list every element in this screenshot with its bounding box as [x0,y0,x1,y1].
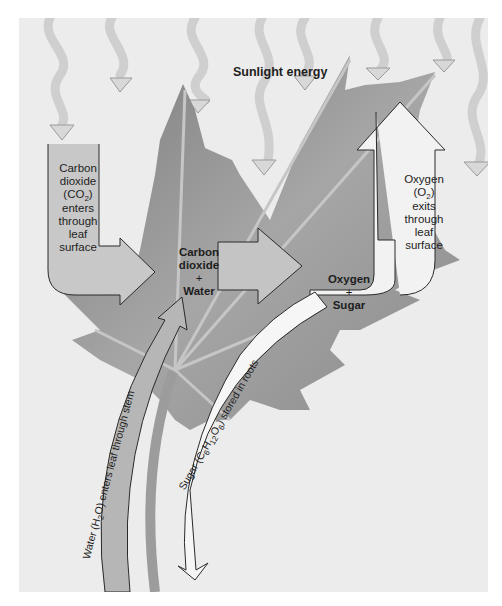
co2-line: enters [51,202,105,215]
co2-line: dioxide [51,175,105,188]
o2-output-label: Oxygen (O2) exits through leaf surface [395,173,453,252]
sunlight-energy-label: Sunlight energy [233,66,327,79]
diagram-artwork [19,18,488,592]
co2-formula: (CO2) [51,188,105,202]
reactants-label: Carbon dioxide + Water [159,246,239,298]
products-label: Oxygen + Sugar [319,273,379,312]
co2-line: Carbon [51,162,105,175]
co2-line: through [51,215,105,228]
co2-line: leaf [51,228,105,241]
co2-line: surface [51,241,105,254]
photosynthesis-diagram: Sunlight energy Carbon dioxide (CO2) ent… [19,18,488,592]
co2-input-label: Carbon dioxide (CO2) enters through leaf… [51,162,105,254]
